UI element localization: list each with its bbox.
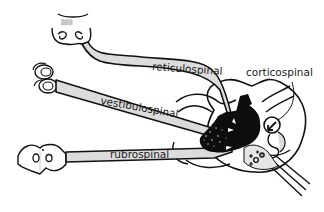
corticospinal-label: corticospinal bbox=[246, 66, 313, 78]
vestibular-nuclei-source bbox=[33, 63, 57, 93]
svg-text:▒▒▒: ▒▒▒ bbox=[61, 19, 73, 26]
rubrospinal-label: rubrospinal bbox=[110, 148, 169, 160]
reticular-formation-source: ▒▒▒ bbox=[52, 14, 91, 45]
pathway-diagram: ▒▒▒ ret bbox=[0, 0, 324, 212]
red-nucleus-source bbox=[18, 145, 66, 175]
reticulospinal-label: reticulospinal bbox=[152, 60, 223, 77]
